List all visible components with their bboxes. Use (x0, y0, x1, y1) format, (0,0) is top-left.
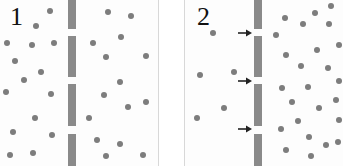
particle (32, 115, 38, 121)
panel-label-2: 2 (197, 4, 210, 30)
particle (295, 118, 301, 124)
particle (282, 15, 288, 21)
particle (312, 10, 318, 16)
arrow-right-icon (238, 77, 252, 85)
particle (49, 132, 55, 138)
particle (10, 129, 16, 135)
particle (86, 115, 92, 121)
particle (12, 58, 18, 64)
particle (326, 21, 332, 27)
particle (289, 99, 295, 105)
particle (336, 42, 342, 48)
panel-separator-left (158, 0, 159, 166)
particle (221, 105, 227, 111)
particle (30, 150, 36, 156)
particle (47, 8, 53, 14)
particle (7, 152, 13, 158)
particle (336, 78, 342, 84)
membrane-segment (254, 0, 262, 29)
particle (128, 13, 134, 19)
particle (305, 84, 311, 90)
particle (308, 153, 314, 159)
particle (125, 104, 131, 110)
particle (300, 21, 306, 27)
membrane-segment (254, 36, 262, 77)
particle (29, 42, 35, 48)
particle (105, 9, 111, 15)
panel-label-1: 1 (10, 4, 23, 30)
particle (143, 53, 149, 59)
particle (101, 92, 107, 98)
particle (283, 52, 289, 58)
particle (143, 99, 149, 105)
panel-separator-right (184, 0, 185, 166)
particle (325, 65, 331, 71)
arrow-right-icon (238, 29, 252, 37)
membrane-segment (68, 84, 76, 126)
particle (336, 117, 342, 123)
particle (33, 23, 39, 29)
particle (328, 3, 334, 9)
membrane-segment (254, 134, 262, 166)
particle (4, 40, 10, 46)
particle (194, 115, 200, 121)
particle (278, 126, 284, 132)
particle (140, 152, 146, 158)
particle (306, 134, 312, 140)
particle (117, 141, 123, 147)
particle (117, 79, 123, 85)
particle (38, 69, 44, 75)
particle (323, 142, 329, 148)
particle (273, 32, 279, 38)
particle (316, 105, 322, 111)
membrane-segment (68, 134, 76, 166)
particle (333, 97, 339, 103)
membrane-segment (68, 36, 76, 77)
membrane-segment (254, 84, 262, 126)
particle (103, 153, 109, 159)
particle (335, 139, 341, 145)
particle (298, 63, 304, 69)
particle (118, 34, 124, 40)
particle (283, 147, 289, 153)
particle (51, 40, 57, 46)
particle (48, 91, 54, 97)
particle (197, 72, 203, 78)
particle (3, 89, 9, 95)
panel-1 (0, 0, 158, 166)
particle (210, 30, 216, 36)
particle (94, 137, 100, 143)
particle (103, 54, 109, 60)
particle (314, 47, 320, 53)
particle (279, 85, 285, 91)
particle (90, 40, 96, 46)
membrane-segment (68, 0, 76, 29)
particle (231, 69, 237, 75)
arrow-right-icon (238, 125, 252, 133)
particle (21, 77, 27, 83)
